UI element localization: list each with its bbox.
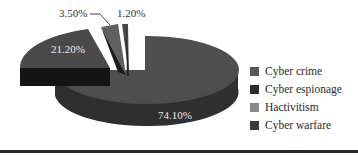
legend-swatch: [250, 85, 259, 94]
slice-cyber-espionage: [20, 29, 110, 86]
legend-label: Cyber warfare: [265, 119, 331, 131]
legend-item-cyber-crime: Cyber crime: [250, 62, 342, 80]
legend-label: Cyber crime: [265, 65, 322, 77]
legend: Cyber crime Cyber espionage Hactivitism …: [250, 62, 342, 134]
legend-item-hactivitism: Hactivitism: [250, 98, 342, 116]
legend-swatch: [250, 121, 259, 130]
label-cyber-warfare: 1.20%: [117, 7, 145, 19]
label-cyber-espionage: 21.20%: [51, 43, 85, 55]
legend-label: Cyber espionage: [265, 83, 342, 95]
legend-label: Hactivitism: [265, 101, 319, 113]
leader-line: [90, 14, 110, 25]
label-hactivitism: 3.50%: [59, 7, 87, 19]
legend-swatch: [250, 103, 259, 112]
legend-item-cyber-warfare: Cyber warfare: [250, 116, 342, 134]
legend-swatch: [250, 67, 259, 76]
label-cyber-crime: 74.10%: [158, 109, 192, 121]
bottom-rule: [0, 150, 358, 153]
legend-item-cyber-espionage: Cyber espionage: [250, 80, 342, 98]
